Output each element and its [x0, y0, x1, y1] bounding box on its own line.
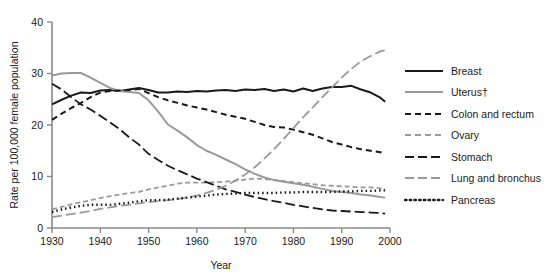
series-line	[52, 73, 385, 198]
series-line	[52, 86, 385, 105]
y-axis-ticks: 010203040	[31, 16, 52, 234]
y-tick-label: 30	[31, 67, 43, 79]
x-axis-title: Year	[210, 259, 232, 271]
legend-item-label: Stomach	[451, 152, 492, 163]
x-tick-label: 1970	[233, 235, 257, 247]
legend-item[interactable]: Pancreas	[404, 189, 544, 211]
y-axis-title: Rate per 100,000 female population	[8, 41, 20, 208]
x-tick-label: 1980	[282, 235, 306, 247]
x-tick-label: 1950	[137, 235, 161, 247]
legend-item-label: Ovary	[451, 130, 479, 141]
chart-figure: 010203040 193019401950196019701980199020…	[0, 0, 544, 279]
x-tick-label: 2000	[378, 235, 402, 247]
legend-item-label: Lung and bronchus	[451, 173, 541, 184]
legend-line-swatch	[404, 65, 444, 77]
x-tick-label: 1930	[40, 235, 64, 247]
series-line	[52, 89, 385, 153]
x-tick-label: 1940	[89, 235, 113, 247]
y-tick-label: 20	[31, 119, 43, 131]
data-series-group	[52, 50, 385, 217]
legend-item[interactable]: Lung and bronchus	[404, 168, 544, 190]
legend-line-swatch	[404, 86, 444, 98]
x-axis-ticks: 19301940195019601970198019902000	[40, 228, 402, 247]
legend-line-swatch	[404, 129, 444, 141]
legend-item[interactable]: Stomach	[404, 146, 544, 168]
chart-legend: BreastUterus†Colon and rectumOvaryStomac…	[404, 60, 544, 211]
legend-line-swatch	[404, 151, 444, 163]
y-tick-label: 40	[31, 16, 43, 28]
legend-line-swatch	[404, 194, 444, 206]
y-tick-label: 10	[31, 170, 43, 182]
legend-item-label: Pancreas	[451, 195, 495, 206]
legend-item[interactable]: Colon and rectum	[404, 103, 544, 125]
x-tick-label: 1990	[330, 235, 354, 247]
legend-item-label: Uterus†	[451, 87, 488, 98]
y-tick-label: 0	[37, 222, 43, 234]
legend-line-swatch	[404, 172, 444, 184]
legend-item[interactable]: Ovary	[404, 125, 544, 147]
x-tick-label: 1960	[185, 235, 209, 247]
legend-item-label: Breast	[451, 66, 481, 77]
legend-item-label: Colon and rectum	[451, 109, 534, 120]
legend-line-swatch	[404, 108, 444, 120]
legend-item[interactable]: Breast	[404, 60, 544, 82]
legend-item[interactable]: Uterus†	[404, 82, 544, 104]
